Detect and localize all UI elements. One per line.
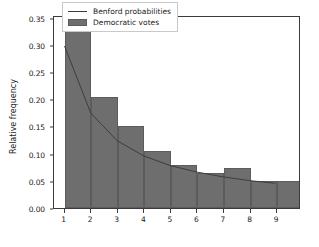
x-tick-mark-8 xyxy=(250,209,251,213)
legend-label-democratic: Democratic votes xyxy=(93,18,159,27)
legend-line-icon xyxy=(67,6,88,17)
x-tick-mark-9 xyxy=(276,209,277,213)
x-tick-label-6: 6 xyxy=(194,215,199,224)
x-tick-mark-4 xyxy=(143,209,144,213)
x-tick-label-8: 8 xyxy=(247,215,252,224)
x-tick-mark-3 xyxy=(117,209,118,213)
chart-legend: Benford probabilities Democratic votes xyxy=(62,2,178,32)
x-tick-label-4: 4 xyxy=(141,215,146,224)
benford-line-layer xyxy=(54,17,299,208)
y-tick-label-0.20: 0.20 xyxy=(29,96,45,105)
x-tick-label-1: 1 xyxy=(61,215,66,224)
benford-probability-line xyxy=(65,46,276,183)
x-tick-label-2: 2 xyxy=(88,215,93,224)
benford-chart-figure: 0.000.050.100.150.200.250.300.35 Relativ… xyxy=(0,0,319,247)
y-tick-label-0.25: 0.25 xyxy=(29,69,45,78)
x-tick-label-7: 7 xyxy=(221,215,226,224)
x-tick-label-3: 3 xyxy=(114,215,119,224)
x-tick-mark-1 xyxy=(64,209,65,213)
x-tick-label-9: 9 xyxy=(274,215,279,224)
plot-area xyxy=(53,16,300,209)
x-tick-mark-5 xyxy=(170,209,171,213)
x-tick-label-5: 5 xyxy=(167,215,172,224)
x-tick-mark-6 xyxy=(196,209,197,213)
legend-item-democratic: Democratic votes xyxy=(67,17,171,28)
y-tick-label-0.05: 0.05 xyxy=(29,177,45,186)
x-tick-mark-7 xyxy=(223,209,224,213)
legend-label-benford: Benford probabilities xyxy=(93,7,171,16)
y-axis-title: Relative frequency xyxy=(9,57,18,177)
x-axis: 123456789 xyxy=(0,209,319,247)
x-tick-mark-2 xyxy=(90,209,91,213)
y-tick-label-0.30: 0.30 xyxy=(29,41,45,50)
y-tick-label-0.10: 0.10 xyxy=(29,150,45,159)
y-tick-label-0.15: 0.15 xyxy=(29,123,45,132)
legend-item-benford: Benford probabilities xyxy=(67,6,171,17)
legend-patch-icon xyxy=(67,17,88,28)
